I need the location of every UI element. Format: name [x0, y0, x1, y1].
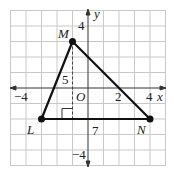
point-m — [69, 38, 76, 45]
point-label-n: N — [136, 122, 147, 137]
triangle-lmn — [42, 42, 151, 120]
axes — [10, 9, 166, 167]
tick-label-x-neg4: −4 — [14, 89, 28, 104]
origin-label: O — [76, 89, 86, 104]
tick-label-y-neg4: −4 — [72, 147, 86, 162]
x-axis-label: x — [156, 89, 163, 104]
base-measure-label: 7 — [92, 123, 99, 138]
tick-label-x-4: 4 — [146, 89, 153, 104]
point-n — [147, 116, 154, 123]
right-angle-marker — [62, 109, 73, 120]
y-axis-label: y — [92, 6, 100, 21]
tick-label-y-4: 4 — [78, 18, 85, 33]
tick-label-x-2: 2 — [115, 89, 122, 104]
point-l — [38, 116, 45, 123]
point-label-l: L — [26, 122, 34, 137]
coordinate-plane: M L N y x O −4 2 4 4 −4 5 7 — [0, 0, 174, 178]
point-label-m: M — [57, 26, 70, 41]
height-measure-label: 5 — [62, 72, 69, 87]
